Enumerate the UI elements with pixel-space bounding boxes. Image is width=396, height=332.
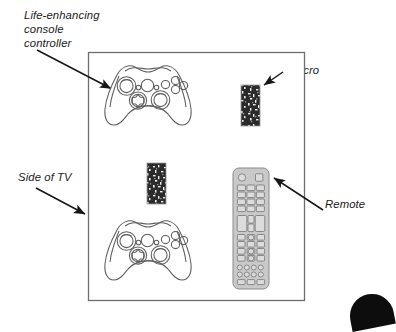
arrow-side-of-tv [36,188,85,214]
velcro-strip-lower [147,163,166,204]
velcro-strip-upper [241,85,260,126]
tv-remote [233,168,269,289]
